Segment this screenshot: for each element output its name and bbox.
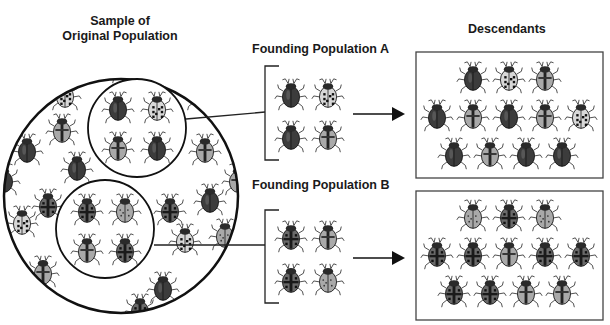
diagram-canvas xyxy=(0,0,610,325)
beetle-M xyxy=(154,194,186,225)
beetle-L xyxy=(312,221,344,252)
founding-a-beetles xyxy=(275,79,344,152)
beetle-D xyxy=(147,272,179,303)
beetle-M xyxy=(275,221,307,252)
beetle-D xyxy=(61,152,93,183)
beetle-S xyxy=(169,224,201,255)
founding-b-beetles xyxy=(275,221,344,295)
sample-circle-a xyxy=(88,79,186,177)
beetle-P xyxy=(312,264,344,295)
beetle-M xyxy=(275,264,307,295)
beetle-L xyxy=(189,134,221,165)
beetle-D xyxy=(11,134,43,165)
connector-line-a xyxy=(186,112,265,119)
beetle-S xyxy=(312,79,344,110)
beetle-D xyxy=(275,79,307,110)
beetle-L xyxy=(46,114,78,145)
beetle-D xyxy=(275,121,307,152)
arrow-a xyxy=(353,107,405,121)
bracket-a xyxy=(265,66,279,160)
bracket-b xyxy=(265,210,279,303)
beetle-D xyxy=(194,184,226,215)
beetle-L xyxy=(312,121,344,152)
beetle-D xyxy=(184,79,216,110)
beetle-S xyxy=(0,64,26,95)
sample-circle-b xyxy=(56,180,154,278)
arrow-b xyxy=(353,251,405,265)
